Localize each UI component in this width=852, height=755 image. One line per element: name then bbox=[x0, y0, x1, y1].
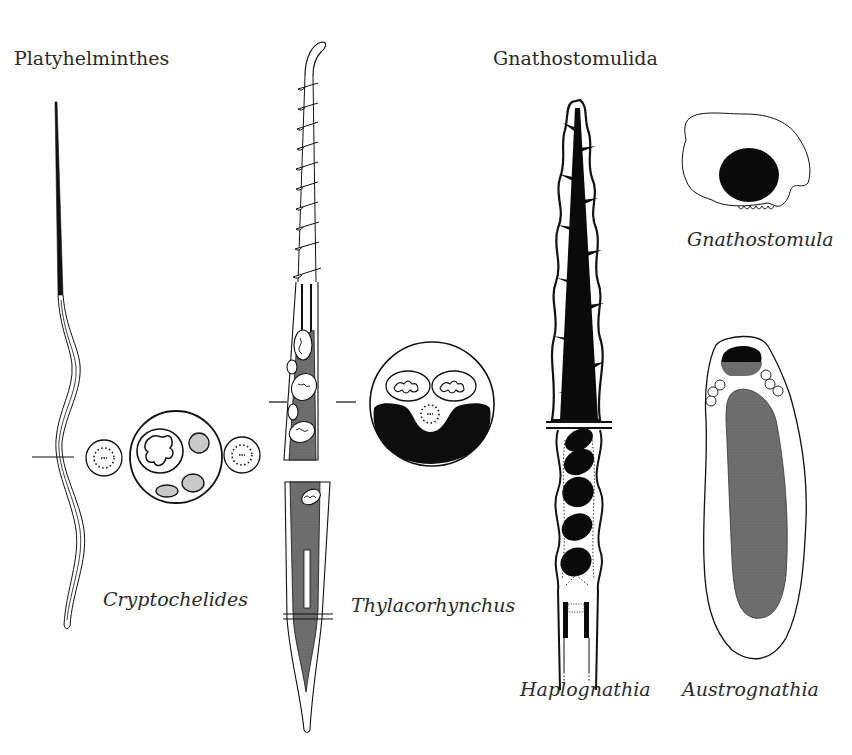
granule bbox=[189, 433, 209, 453]
haplognathia-sperm bbox=[546, 100, 612, 690]
thylacorhynchus-sperm-middle bbox=[269, 282, 356, 460]
cryptochelides-sperm bbox=[32, 102, 85, 629]
sperm-tip-dark bbox=[55, 102, 63, 295]
nucleus-dark bbox=[719, 148, 779, 202]
cryptochelides-axoneme-section-right bbox=[224, 437, 260, 473]
thylacorhynchus-sperm-upper bbox=[293, 42, 326, 282]
diagram-canvas bbox=[0, 0, 852, 755]
thylacorhynchus-cross-section bbox=[370, 342, 494, 466]
mitochondrion bbox=[288, 404, 298, 420]
mitochondrion bbox=[287, 360, 297, 374]
sperm-body-mid bbox=[59, 300, 81, 620]
sperm-body-right bbox=[62, 295, 85, 626]
granule bbox=[182, 474, 204, 492]
gnathostomula-sperm bbox=[682, 113, 810, 209]
thylacorhynchus-sperm-lower bbox=[283, 482, 333, 733]
cryptochelides-main-section bbox=[130, 411, 222, 503]
sperm-body-left bbox=[56, 295, 77, 625]
austrognathia-sperm bbox=[704, 336, 807, 658]
cryptochelides-axoneme-section-left bbox=[86, 440, 122, 476]
granule bbox=[156, 485, 178, 497]
mitochondrion bbox=[294, 330, 312, 360]
